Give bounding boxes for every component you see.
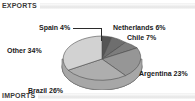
section-title-imports: IMPORTS: [0, 91, 38, 100]
section-rule-imports: [38, 93, 195, 99]
leader-line-spain-vertical: [101, 28, 102, 41]
pie-label-argentina: Argentina 23%: [139, 70, 188, 78]
exports-pie-chart-figure: EXPORTS: [0, 0, 195, 101]
pie-label-other: Other 34%: [7, 47, 42, 55]
pie-slices: [63, 36, 141, 80]
section-header-exports: EXPORTS: [0, 0, 195, 11]
section-header-imports: IMPORTS: [0, 90, 195, 101]
section-title-exports: EXPORTS: [0, 1, 40, 10]
pie-label-spain: Spain 4%: [39, 24, 70, 32]
pie-label-netherlands: Netherlands 6%: [113, 24, 166, 32]
chart-area: Spain 4% Netherlands 6% Chile 7% Argenti…: [0, 11, 195, 90]
pie-label-chile: Chile 7%: [127, 34, 156, 42]
section-rule-exports: [40, 3, 195, 9]
leader-line-spain-horizontal: [73, 28, 102, 29]
